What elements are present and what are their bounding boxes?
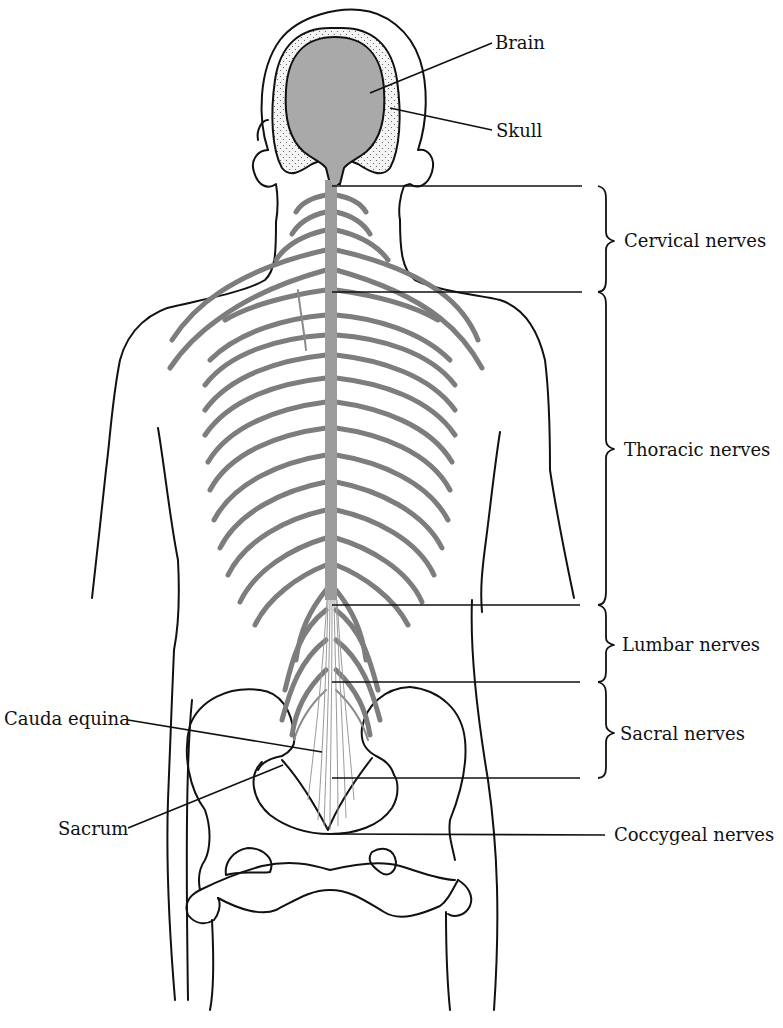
- lumbar-nerves-label: Lumbar nerves: [622, 636, 760, 654]
- coccygeal-leader: [332, 834, 605, 835]
- skull-label: Skull: [496, 122, 542, 140]
- lumbar-brace: [598, 605, 614, 682]
- sacrum-leader: [128, 765, 283, 828]
- cervical-nerves-label: Cervical nerves: [624, 232, 766, 250]
- skull-leader: [390, 108, 492, 130]
- pelvis: [187, 687, 472, 1010]
- cauda-equina: [308, 600, 354, 830]
- region-braces: [598, 186, 614, 778]
- spinal-nerve-diagram: [0, 0, 783, 1028]
- cervical-brace: [598, 186, 614, 292]
- thoracic-nerves-label: Thoracic nerves: [624, 441, 770, 459]
- sacral-nerves-label: Sacral nerves: [620, 725, 745, 743]
- sacrum-label: Sacrum: [58, 820, 128, 838]
- thoracic-brace: [598, 292, 614, 605]
- brain-label: Brain: [495, 34, 545, 52]
- cauda-equina-label: Cauda equina: [4, 710, 130, 728]
- coccygeal-nerves-label: Coccygeal nerves: [614, 826, 774, 844]
- spinal-cord: [325, 180, 337, 600]
- sacral-brace: [598, 682, 614, 778]
